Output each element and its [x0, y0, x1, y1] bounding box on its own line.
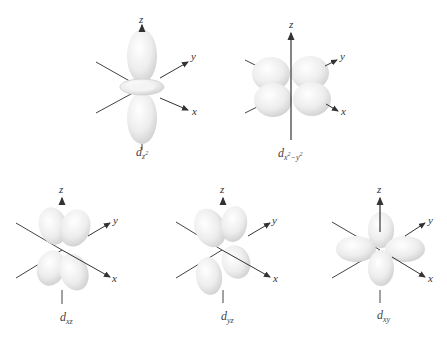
x-axis-label: x [192, 106, 197, 117]
label-dxy: dxy [377, 309, 390, 324]
y-axis-label: y [191, 51, 196, 62]
d-orbitals-diagram [0, 0, 447, 342]
z-axis-label: z [59, 184, 63, 195]
x-axis-label: x [112, 273, 117, 284]
orbital-dx2-y2 [245, 33, 338, 140]
z-axis-label: z [139, 14, 143, 25]
label-dxz: dxz [60, 311, 73, 326]
label-dx2-y2: dx2−y2 [278, 147, 303, 162]
y-axis-label: y [272, 215, 277, 226]
orbital-dxy [332, 198, 425, 303]
z-axis-label: z [220, 184, 224, 195]
y-axis-label: y [340, 51, 345, 62]
x-axis-label: x [341, 106, 346, 117]
label-dyz: dyz [221, 310, 234, 325]
label-dz2: dz2 [136, 146, 148, 161]
y-axis-label: y [428, 215, 433, 226]
x-axis-label: x [273, 273, 278, 284]
x-axis-label: x [428, 273, 433, 284]
z-axis-label: z [289, 19, 293, 30]
y-axis-label: y [113, 215, 118, 226]
z-axis-label: z [377, 184, 381, 195]
orbital-dyz [176, 198, 270, 303]
orbital-dxz [16, 198, 110, 304]
orbital-dz2 [96, 25, 188, 150]
